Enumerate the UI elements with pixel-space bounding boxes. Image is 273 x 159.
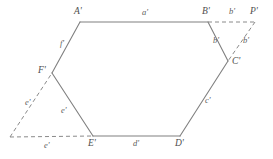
edge-FA-solid bbox=[52, 22, 80, 73]
vertex-label-A: A' bbox=[74, 7, 82, 17]
edge-label-EF: e' bbox=[61, 106, 67, 115]
solid-edge-layer bbox=[52, 22, 228, 136]
edge-label-DE: d' bbox=[133, 139, 139, 148]
edge-GE-dashed bbox=[10, 136, 93, 137]
dashed-edge-label-GE: e' bbox=[44, 141, 50, 150]
geometry-diagram: a'b'c'd'e'f'b'b'e'e'A'B'C'D'E'F'P' bbox=[0, 0, 273, 159]
vertex-label-B: B' bbox=[202, 7, 210, 17]
dashed-edge-label-PC: b' bbox=[243, 36, 249, 45]
vertex-label-P: P' bbox=[250, 7, 258, 17]
vertex-label-E: E' bbox=[88, 139, 96, 149]
vertex-label-F: F' bbox=[38, 66, 46, 76]
edge-label-FA: f' bbox=[60, 39, 64, 48]
edge-label-AB: a' bbox=[142, 8, 148, 17]
dashed-edge-label-GF: e' bbox=[25, 98, 31, 107]
edge-CD-solid bbox=[180, 61, 228, 136]
edge-GF-dashed bbox=[10, 73, 52, 137]
vertex-label-D: D' bbox=[175, 139, 184, 149]
diagram-canvas bbox=[0, 0, 273, 159]
edge-EF-solid bbox=[52, 73, 93, 136]
edge-label-CD: c' bbox=[205, 96, 211, 105]
vertex-label-C: C' bbox=[232, 57, 240, 67]
dashed-edge-label-BP: b' bbox=[229, 7, 235, 16]
edge-label-BC: b' bbox=[213, 36, 219, 45]
